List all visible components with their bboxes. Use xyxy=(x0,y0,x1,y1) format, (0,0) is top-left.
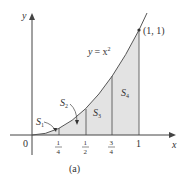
s1-pointer xyxy=(44,122,55,130)
svg-text:3: 3 xyxy=(110,139,114,147)
x-axis-label: x xyxy=(171,139,177,150)
tick-half: 1 2 xyxy=(82,139,89,156)
tick-quarter: 1 4 xyxy=(55,139,62,156)
region-s1-label: S1 xyxy=(36,116,44,128)
figure-caption: (a) xyxy=(69,163,80,175)
x-axis-arrow-icon xyxy=(169,132,176,138)
svg-text:2: 2 xyxy=(84,148,88,156)
y-axis-arrow-icon xyxy=(29,13,35,20)
diagram-svg: y x 0 (1, 1) y= x2 1 4 1 2 3 4 1 S1 S2 S… xyxy=(0,0,188,177)
svg-text:4: 4 xyxy=(110,148,114,156)
svg-text:4: 4 xyxy=(57,148,61,156)
svg-text:1: 1 xyxy=(84,139,88,147)
svg-text:1: 1 xyxy=(57,139,61,147)
tick-one: 1 xyxy=(136,138,141,149)
y-axis-label: y xyxy=(21,10,27,21)
origin-label: 0 xyxy=(23,138,28,149)
tick-three-quarter: 3 4 xyxy=(108,139,115,156)
point-label: (1, 1) xyxy=(143,25,165,37)
region-s2-label: S2 xyxy=(60,97,68,109)
point-1-1 xyxy=(137,28,140,31)
curve-label: y= x2 xyxy=(87,46,111,57)
